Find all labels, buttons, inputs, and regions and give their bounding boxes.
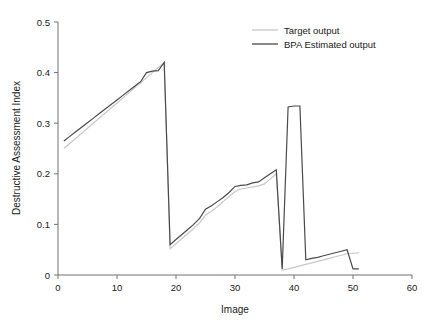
x-axis-title: Image [221,304,249,315]
x-tick-label: 60 [407,282,418,293]
series-line-1 [64,62,359,269]
x-tick-label: 40 [289,282,300,293]
y-axis-ticks: 00.10.20.30.40.5 [37,17,58,281]
data-series-group [64,62,359,269]
legend-label-1: Target output [284,25,340,36]
x-tick-label: 10 [112,282,123,293]
y-tick-label: 0.4 [37,67,50,78]
x-tick-label: 0 [55,282,60,293]
line-chart: 00.10.20.30.40.5 0102030405060 Destructi… [0,0,431,328]
y-tick-label: 0.1 [37,219,50,230]
chart-legend: Target outputBPA Estimated output [252,25,376,50]
y-axis-title: Destructive Assessment Index [11,81,22,215]
y-tick-label: 0.5 [37,17,50,28]
y-tick-label: 0 [45,270,50,281]
y-tick-label: 0.2 [37,168,50,179]
x-tick-label: 50 [348,282,359,293]
legend-label-2: BPA Estimated output [284,39,376,50]
x-tick-label: 30 [230,282,241,293]
y-tick-label: 0.3 [37,118,50,129]
x-axis-ticks: 0102030405060 [55,275,417,293]
chart-figure: 00.10.20.30.40.5 0102030405060 Destructi… [0,0,431,328]
x-tick-label: 20 [171,282,182,293]
series-line-2 [64,62,359,268]
